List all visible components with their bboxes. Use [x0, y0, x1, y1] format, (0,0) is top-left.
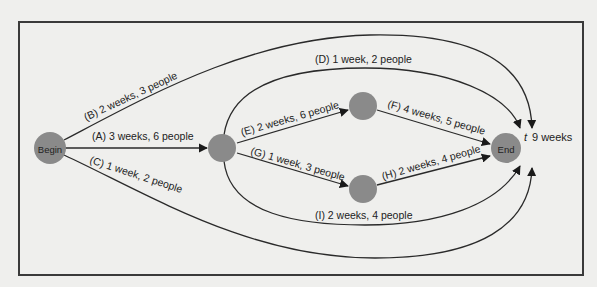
total-time-symbol: t — [524, 131, 528, 143]
edge-b-label: (B) 2 weeks, 3 people — [82, 69, 179, 123]
node-lower — [349, 175, 377, 203]
node-middle — [208, 134, 236, 162]
total-time-value: 9 weeks — [532, 131, 573, 143]
node-begin-label: Begin — [38, 144, 62, 155]
edge-e-label: (E) 2 weeks, 6 people — [239, 98, 340, 138]
edge-a-label: (A) 3 weeks, 6 people — [92, 130, 194, 142]
edge-g-label: (G) 1 week, 3 people — [249, 144, 346, 182]
network-diagram: Begin End (B) 2 weeks, 3 people (A) 3 we… — [0, 0, 597, 287]
edge-i-label: (I) 2 weeks, 4 people — [315, 209, 413, 221]
edge-d-label: (D) 1 week, 2 people — [315, 53, 412, 65]
node-end-label: End — [498, 144, 515, 155]
node-upper — [349, 92, 377, 120]
